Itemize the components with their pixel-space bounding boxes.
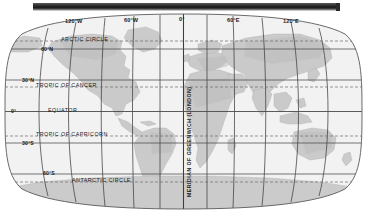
world-map-svg	[0, 12, 367, 211]
window-title-bar[interactable]	[33, 3, 340, 11]
world-map[interactable]: 120°W 60°W 0° 60°E 120°E 60°N 30°N 0° 30…	[0, 12, 367, 211]
screenshot-root: 120°W 60°W 0° 60°E 120°E 60°N 30°N 0° 30…	[0, 0, 367, 211]
map-body	[0, 12, 367, 211]
window-title-bar-cap	[336, 3, 340, 11]
